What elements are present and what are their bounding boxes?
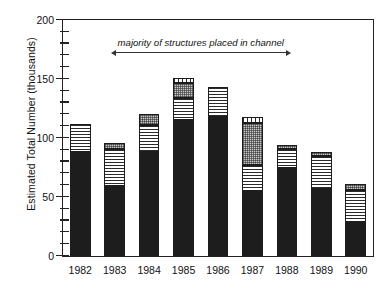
bar-segment-solid-black [345,222,366,256]
bar-segment-horizontal-stripe [277,149,298,168]
y-axis-tick-major [56,255,69,256]
x-axis-tick-label: 1982 [69,264,92,276]
bar-segment-checkered-grey [311,152,332,156]
bar-1990 [345,20,366,256]
y-axis-tick-minor [60,54,69,55]
x-axis-tick-label: 1989 [310,264,333,276]
bar-segment-dotted [242,117,263,123]
bar-1982 [70,20,91,256]
bar-1989 [311,20,332,256]
bar-segment-solid-black [208,117,229,256]
annotation-arrow-line [115,52,287,53]
y-axis-tick-label: 0 [48,250,54,262]
y-axis-tick-label: 50 [42,191,54,203]
bar-segment-solid-black [242,191,263,256]
bar-segment-checkered-grey [277,145,298,149]
y-axis-tick-minor [60,125,69,126]
y-axis-tick-minor [60,219,69,220]
bar-segment-horizontal-stripe [208,87,229,117]
y-axis-tick-label: 150 [36,73,54,85]
y-axis-tick-minor [60,231,69,232]
y-axis-tick-major [56,196,69,197]
x-axis-tick-label: 1986 [206,264,229,276]
bar-segment-solid-black [104,186,125,256]
y-axis-tick-minor [60,149,69,150]
y-axis-title: Estimated Total Number (thousands) [25,9,37,239]
y-axis-tick-minor [60,42,69,43]
y-axis-tick-minor [60,101,69,102]
x-axis-tick-label: 1987 [241,264,264,276]
bar-1986 [208,20,229,256]
y-axis-tick-minor [60,208,69,209]
bar-segment-horizontal-stripe [104,149,125,187]
y-axis-tick-label: 200 [36,14,54,26]
x-axis-tick-label: 1985 [172,264,195,276]
x-axis-tick-label: 1990 [344,264,367,276]
bar-segment-solid-black [139,152,160,256]
y-axis-tick-minor [60,90,69,91]
bar-segment-solid-black [173,120,194,256]
x-axis-tick-label: 1984 [137,264,160,276]
bar-segment-solid-black [311,189,332,256]
bar-segment-horizontal-stripe [139,125,160,152]
bar-segment-checkered-grey [139,114,160,125]
y-axis-tick-minor [60,31,69,32]
bar-segment-solid-black [277,168,298,257]
bar-segment-horizontal-stripe [70,124,91,152]
x-axis-tick-label: 1988 [275,264,298,276]
plot-area: 050100150200 198219831984198519861987198… [62,19,374,257]
y-axis-tick-minor [60,66,69,67]
y-axis-tick-minor [60,184,69,185]
bar-segment-dotted [173,78,194,83]
bar-segment-horizontal-stripe [311,156,332,189]
bar-segment-checkered-grey [345,184,366,190]
y-axis-tick-major [56,137,69,138]
chart-figure: Estimated Total Number (thousands) 05010… [0,0,391,296]
bar-1987 [242,20,263,256]
x-axis-tick-label: 1983 [103,264,126,276]
bar-1984 [139,20,160,256]
bar-1985 [173,20,194,256]
y-axis-tick-major [56,78,69,79]
bar-segment-horizontal-stripe [242,165,263,191]
bar-segment-horizontal-stripe [345,190,366,222]
y-axis-tick-major [56,19,69,20]
y-axis-tick-minor [60,172,69,173]
y-axis-tick-minor [60,160,69,161]
bar-segment-checkered-grey [104,143,125,149]
bar-segment-checkered-grey [173,83,194,98]
bar-segment-solid-black [70,152,91,256]
bar-segment-checkered-grey [242,123,263,165]
annotation-label: majority of structures placed in channel [118,37,284,48]
y-axis-tick-label: 100 [36,132,54,144]
bar-segment-horizontal-stripe [173,98,194,120]
y-axis-tick-minor [60,243,69,244]
y-axis-tick-minor [60,113,69,114]
